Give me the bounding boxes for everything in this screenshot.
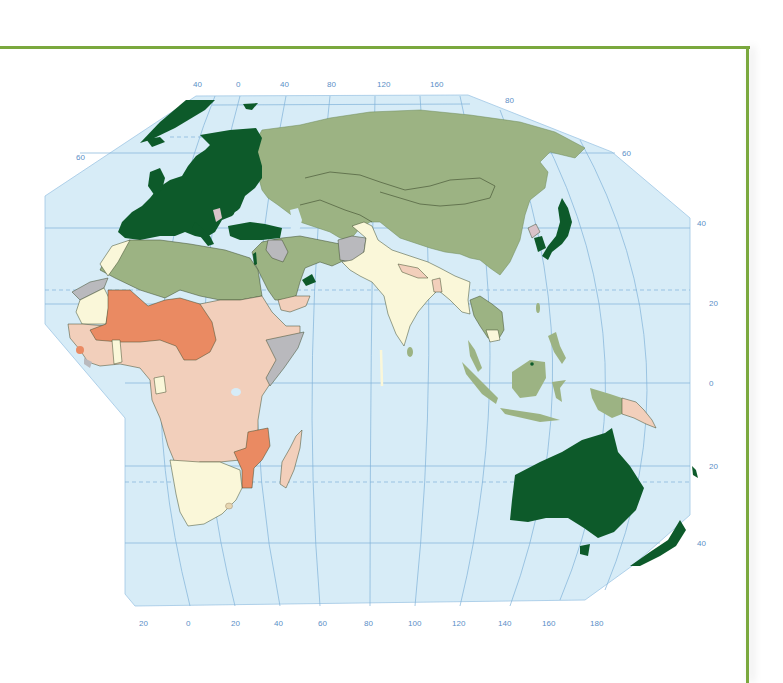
svg-text:40: 40 xyxy=(193,80,202,89)
region-brunei xyxy=(530,362,534,366)
svg-text:20: 20 xyxy=(709,299,718,308)
svg-text:180: 180 xyxy=(590,619,604,628)
black-sea xyxy=(234,209,262,219)
region-lesotho xyxy=(226,503,233,509)
svg-text:0: 0 xyxy=(709,379,714,388)
region-sierra-leone xyxy=(76,346,84,354)
svg-text:160: 160 xyxy=(542,619,556,628)
svg-text:120: 120 xyxy=(377,80,391,89)
svg-text:60: 60 xyxy=(318,619,327,628)
svg-text:20: 20 xyxy=(231,619,240,628)
svg-text:160: 160 xyxy=(430,80,444,89)
lake-victoria xyxy=(231,388,241,396)
region-gabon xyxy=(154,376,166,394)
svg-text:120: 120 xyxy=(452,619,466,628)
world-map: 40 0 40 80 120 160 80 60 60 40 20 0 20 4… xyxy=(0,0,783,683)
svg-text:20: 20 xyxy=(709,462,718,471)
svg-text:100: 100 xyxy=(408,619,422,628)
svg-text:0: 0 xyxy=(236,80,241,89)
region-sri-lanka xyxy=(407,347,413,357)
region-maldives xyxy=(381,350,382,386)
svg-text:40: 40 xyxy=(280,80,289,89)
svg-text:40: 40 xyxy=(697,219,706,228)
svg-text:20: 20 xyxy=(139,619,148,628)
bottom-longitude-labels: 20 0 20 40 60 80 100 120 140 160 180 xyxy=(139,619,604,628)
svg-text:80: 80 xyxy=(505,96,514,105)
svg-text:80: 80 xyxy=(327,80,336,89)
svg-text:80: 80 xyxy=(364,619,373,628)
region-taiwan xyxy=(536,303,540,313)
svg-text:60: 60 xyxy=(622,149,631,158)
svg-text:0: 0 xyxy=(186,619,191,628)
svg-text:40: 40 xyxy=(697,539,706,548)
svg-text:60: 60 xyxy=(76,153,85,162)
region-bangladesh xyxy=(432,278,442,292)
svg-text:140: 140 xyxy=(498,619,512,628)
region-ghana xyxy=(112,340,122,364)
svg-text:40: 40 xyxy=(274,619,283,628)
region-new-caledonia xyxy=(692,466,698,478)
